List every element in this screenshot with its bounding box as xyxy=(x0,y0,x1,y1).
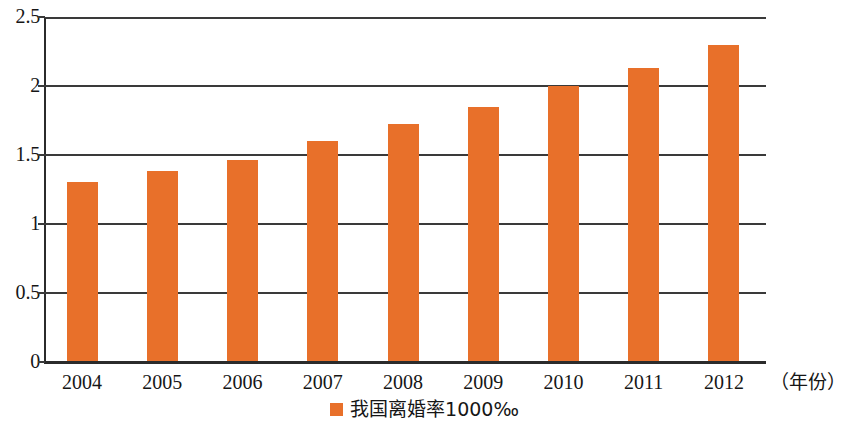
bar xyxy=(147,171,178,361)
x-tick-label: 2005 xyxy=(121,370,203,394)
legend-label: 我国离婚率1000‰ xyxy=(350,398,519,420)
bar xyxy=(67,182,98,361)
bar xyxy=(628,68,659,362)
bar xyxy=(468,107,499,362)
bar xyxy=(708,45,739,362)
bar xyxy=(548,86,579,362)
chart-legend: 我国离婚率1000‰ xyxy=(0,396,849,422)
bar-chart: 00.511.522.5 200420052006200720082009201… xyxy=(0,0,849,424)
x-tick-label: 2010 xyxy=(522,370,604,394)
x-tick-label: 2009 xyxy=(442,370,524,394)
x-tick-label: 2008 xyxy=(362,370,444,394)
bar xyxy=(388,124,419,361)
bars-layer xyxy=(0,0,849,424)
bar xyxy=(227,160,258,361)
legend-swatch-icon xyxy=(330,403,343,416)
x-tick-label: 2011 xyxy=(603,370,685,394)
x-axis-unit-label: （年份） xyxy=(770,370,846,394)
x-tick-label: 2012 xyxy=(683,370,765,394)
x-tick-label: 2006 xyxy=(202,370,284,394)
x-tick-label: 2007 xyxy=(282,370,364,394)
bar xyxy=(307,141,338,361)
x-tick-label: 2004 xyxy=(41,370,123,394)
